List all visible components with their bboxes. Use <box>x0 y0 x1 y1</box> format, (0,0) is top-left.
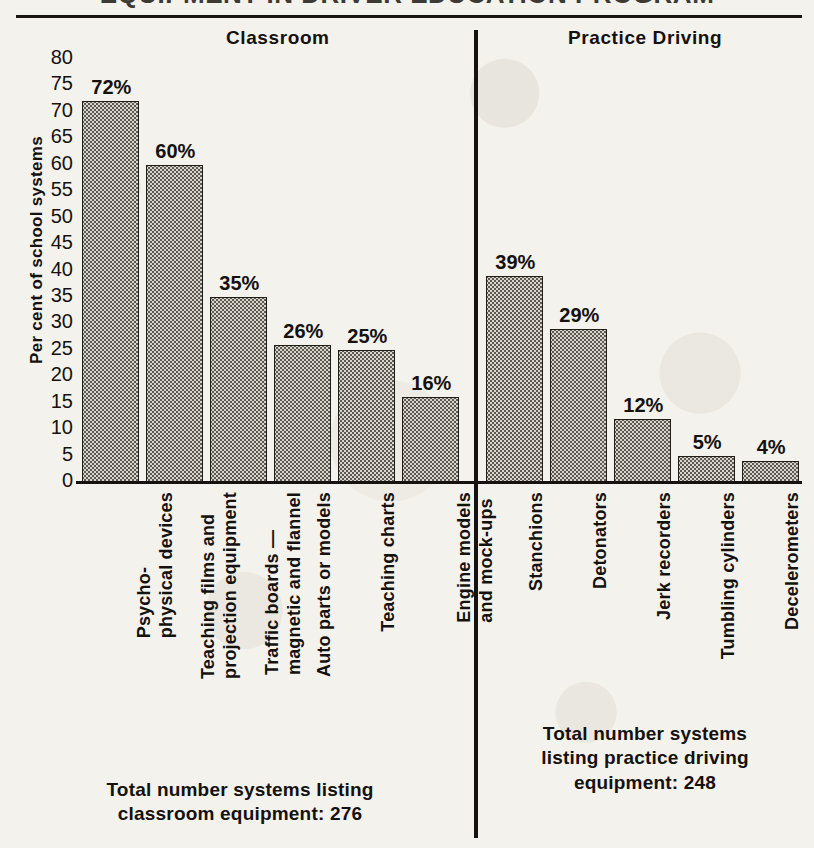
y-axis-tick-55: 55 <box>33 179 73 199</box>
plot-area: 72%60%35%26%25%16%39%29%12%5%4% <box>76 58 802 482</box>
bar-value-label: 5% <box>693 431 722 454</box>
bar-value-label: 72% <box>91 76 131 99</box>
category-label-classroom-2: Traffic boards —magnetic and flannel <box>262 492 306 675</box>
bar-value-label: 39% <box>495 251 535 274</box>
bar-value-label: 26% <box>283 320 323 343</box>
category-label-line2: projection equipment <box>219 492 241 679</box>
category-label-line1: Detonators <box>590 492 610 589</box>
category-label-practice-driving-0: Stanchions <box>526 492 548 591</box>
y-axis-tick-45: 45 <box>33 232 73 252</box>
category-label-line1: Psycho- <box>134 567 154 638</box>
bar-practice-driving-0: 39% <box>486 276 543 482</box>
category-label-classroom-1: Teaching films andprojection equipment <box>198 492 242 679</box>
bar-classroom-2: 35% <box>210 297 267 482</box>
footnote-practice-driving: Total number systemslisting practice dri… <box>492 722 798 795</box>
y-axis-tick-60: 60 <box>33 153 73 173</box>
bar-value-label: 25% <box>347 325 387 348</box>
bar-classroom-0: 72% <box>82 101 139 482</box>
y-axis-tick-0: 0 <box>33 470 73 490</box>
category-label-line2: magnetic and flannel <box>283 492 305 675</box>
bar-classroom-1: 60% <box>146 165 203 482</box>
y-axis-tick-40: 40 <box>33 259 73 279</box>
category-label-line1: Stanchions <box>526 492 546 591</box>
y-axis-tick-25: 25 <box>33 338 73 358</box>
y-axis-tick-70: 70 <box>33 100 73 120</box>
category-label-line1: Traffic boards — <box>262 530 282 675</box>
category-label-line1: Teaching charts <box>378 492 398 632</box>
bar-value-label: 12% <box>623 394 663 417</box>
y-axis-tick-65: 65 <box>33 126 73 146</box>
figure-page: EQUIPMENT IN DRIVER EDUCATION PROGRAM Cl… <box>0 0 814 848</box>
category-label-classroom-3: Auto parts or models <box>314 492 336 677</box>
bar-classroom-5: 16% <box>402 397 459 482</box>
y-axis-tick-35: 35 <box>33 285 73 305</box>
bar-value-label: 60% <box>155 140 195 163</box>
category-label-line2: and mock-ups <box>475 492 497 623</box>
bar-value-label: 35% <box>219 272 259 295</box>
x-axis-baseline <box>76 481 802 484</box>
y-axis-tick-10: 10 <box>33 417 73 437</box>
y-axis-tick-30: 30 <box>33 311 73 331</box>
bar-classroom-3: 26% <box>274 345 331 482</box>
category-label-line1: Teaching films and <box>198 514 218 679</box>
footnote-classroom-line1: Total number systems listing <box>40 778 440 802</box>
footnote-classroom-line2: classroom equipment: 276 <box>40 802 440 826</box>
category-label-line1: Auto parts or models <box>314 492 334 677</box>
y-axis-tick-75: 75 <box>33 73 73 93</box>
category-label-practice-driving-4: Decelerometers <box>782 492 804 630</box>
bar-practice-driving-3: 5% <box>678 456 735 482</box>
category-label-practice-driving-2: Jerk recorders <box>654 492 676 620</box>
y-axis-tick-80: 80 <box>33 47 73 67</box>
category-label-line1: Jerk recorders <box>654 492 674 620</box>
category-label-line2: physical devices <box>155 492 177 638</box>
footnote-practice-line3: equipment: 248 <box>492 771 798 795</box>
footnote-practice-line1: Total number systems <box>492 722 798 746</box>
bar-practice-driving-4: 4% <box>742 461 799 482</box>
category-label-classroom-4: Teaching charts <box>378 492 400 632</box>
category-label-practice-driving-3: Tumbling cylinders <box>718 492 740 659</box>
bar-practice-driving-1: 29% <box>550 329 607 482</box>
bar-value-label: 4% <box>757 436 786 459</box>
bar-value-label: 16% <box>411 372 451 395</box>
y-axis-tick-50: 50 <box>33 206 73 226</box>
category-label-line1: Decelerometers <box>782 492 802 630</box>
category-label-practice-driving-1: Detonators <box>590 492 612 589</box>
y-axis-tick-15: 15 <box>33 391 73 411</box>
bar-value-label: 29% <box>559 304 599 327</box>
category-label-line1: Tumbling cylinders <box>718 492 738 659</box>
bar-classroom-4: 25% <box>338 350 395 482</box>
category-label-classroom-0: Psycho-physical devices <box>134 492 178 638</box>
y-axis-tick-5: 5 <box>33 444 73 464</box>
footnote-classroom: Total number systems listingclassroom eq… <box>40 778 440 827</box>
bar-practice-driving-2: 12% <box>614 419 671 482</box>
footnote-practice-line2: listing practice driving <box>492 746 798 770</box>
category-label-line1: Engine models <box>454 492 474 623</box>
category-label-classroom-5: Engine modelsand mock-ups <box>454 492 498 623</box>
y-axis-tick-20: 20 <box>33 364 73 384</box>
